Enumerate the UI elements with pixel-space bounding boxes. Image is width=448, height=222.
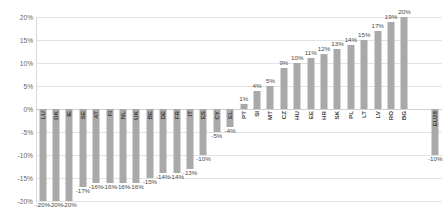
bar-group: PT1% — [237, 17, 250, 201]
category-label-pl: PL — [348, 111, 354, 119]
category-label-at: AT — [93, 111, 99, 119]
bar-bg[interactable] — [401, 17, 408, 109]
value-label-cz: 9% — [279, 60, 288, 66]
category-label-bg: BG — [401, 111, 407, 120]
value-label-fr: -14% — [169, 174, 183, 180]
value-label-it: -13% — [183, 170, 197, 176]
bar-ro[interactable] — [388, 22, 395, 109]
value-label-de: -14% — [156, 174, 170, 180]
category-label-dk: DK — [53, 111, 59, 120]
category-label-nl: NL — [120, 111, 126, 119]
category-label-sk: SK — [334, 111, 340, 120]
y-axis-tick-label: -10% — [0, 152, 33, 159]
category-label-hr: HR — [321, 111, 327, 120]
category-label-es: ES — [200, 111, 206, 119]
category-label-se: SE — [80, 111, 86, 119]
category-label-lv: LV — [375, 111, 381, 118]
y-axis-tick-label: 5% — [0, 83, 33, 90]
y-axis-tick-label: 10% — [0, 60, 33, 67]
category-label-ee: EE — [308, 111, 314, 119]
bar-series: LU-20%DK-20%IE-20%SE-17%AT-16%FI-16%NL-1… — [36, 17, 442, 201]
category-label-fr: FR — [174, 111, 180, 119]
category-label-it: IT — [187, 111, 193, 117]
value-label-cy: -5% — [211, 133, 222, 139]
bar-lt[interactable] — [361, 40, 368, 109]
bar-group: FI-16% — [103, 17, 116, 201]
value-label-at: -16% — [89, 184, 103, 190]
bar-pl[interactable] — [347, 45, 354, 109]
bar-group: UK-16% — [130, 17, 143, 201]
bar-se[interactable] — [79, 109, 86, 187]
category-label-uk: UK — [133, 111, 139, 120]
y-axis-tick-label: -15% — [0, 175, 33, 182]
value-label-bg: 20% — [398, 9, 410, 15]
category-label-fi: FI — [107, 111, 113, 117]
bar-group: EU28-10% — [429, 17, 442, 201]
bar-group: LT15% — [358, 17, 371, 201]
bar-at[interactable] — [93, 109, 100, 183]
bar-group: IE-20% — [63, 17, 76, 201]
value-label-uk: -16% — [129, 184, 143, 190]
bar-ee[interactable] — [307, 58, 314, 109]
bar-mt[interactable] — [267, 86, 274, 109]
bar-group: CZ9% — [277, 17, 290, 201]
value-label-ee: 11% — [305, 50, 317, 56]
value-label-lv: 17% — [371, 23, 383, 29]
y-axis-tick-label: -5% — [0, 129, 33, 136]
bar-fi[interactable] — [106, 109, 113, 183]
bar-si[interactable] — [254, 91, 261, 109]
bar-pt[interactable] — [240, 104, 247, 109]
bar-group: FR-14% — [170, 17, 183, 201]
bar-hr[interactable] — [321, 54, 328, 109]
bar-group: CY-5% — [210, 17, 223, 201]
value-label-be: -15% — [143, 179, 157, 185]
bar-group: LV17% — [371, 17, 384, 201]
bar-nl[interactable] — [120, 109, 127, 183]
bar-group: PL14% — [344, 17, 357, 201]
value-label-ro: 19% — [385, 14, 397, 20]
bar-cz[interactable] — [280, 68, 287, 109]
bar-group: IT-13% — [183, 17, 196, 201]
bar-group: LU-20% — [36, 17, 49, 201]
bar-group: SK13% — [331, 17, 344, 201]
category-label-eu28: EU28 — [432, 111, 438, 126]
category-label-ro: RO — [388, 111, 394, 120]
value-label-es: -10% — [196, 156, 210, 162]
bar-group: BG20% — [398, 17, 411, 201]
bar-lv[interactable] — [374, 31, 381, 109]
value-label-eu28: -10% — [428, 156, 442, 162]
category-label-lt: LT — [361, 111, 367, 118]
value-label-pl: 14% — [345, 37, 357, 43]
value-label-ie: -20% — [62, 202, 76, 208]
y-axis-tick-label: -20% — [0, 198, 33, 205]
bar-group: BE-15% — [143, 17, 156, 201]
bar-sk[interactable] — [334, 49, 341, 109]
bar-group: HU10% — [291, 17, 304, 201]
value-label-mt: 5% — [266, 78, 275, 84]
value-label-dk: -20% — [49, 202, 63, 208]
bar-dk[interactable] — [53, 109, 60, 201]
bar-group: SI4% — [250, 17, 263, 201]
bar-group: ES-10% — [197, 17, 210, 201]
value-label-hr: 12% — [318, 46, 330, 52]
value-label-fi: -16% — [102, 184, 116, 190]
value-label-sk: 13% — [331, 41, 343, 47]
category-label-be: BE — [147, 111, 153, 120]
bar-ie[interactable] — [66, 109, 73, 201]
bar-uk[interactable] — [133, 109, 140, 183]
bar-lu[interactable] — [39, 109, 46, 201]
bar-group: NL-16% — [116, 17, 129, 201]
value-label-se: -17% — [76, 188, 90, 194]
y-axis-tick-label: 20% — [0, 14, 33, 21]
value-label-el: -4% — [225, 128, 236, 134]
y-axis-tick-labels: 20%15%10%5%0%-5%-10%-15%-20% — [0, 17, 33, 201]
bar-group: RO19% — [384, 17, 397, 201]
gridline-neg20pct — [36, 201, 442, 202]
bar-hu[interactable] — [294, 63, 301, 109]
value-label-lt: 15% — [358, 32, 370, 38]
y-axis-tick-label: 0% — [0, 106, 33, 113]
bar-group: DE-14% — [157, 17, 170, 201]
category-label-si: SI — [254, 111, 260, 117]
bar-it[interactable] — [187, 109, 194, 169]
category-label-el: EL — [227, 111, 233, 119]
